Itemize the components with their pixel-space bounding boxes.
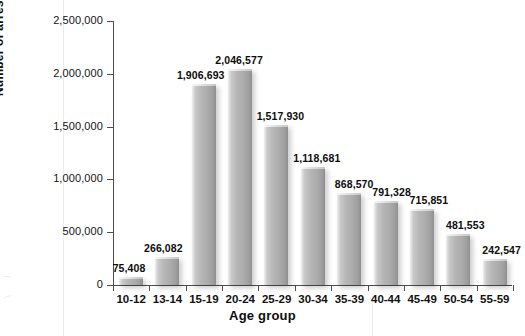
x-axis-tick-label-20-24: 20-24 <box>222 293 258 306</box>
bar-20-24 <box>228 69 252 285</box>
x-axis-tick <box>258 285 259 291</box>
x-axis-tick <box>186 285 187 291</box>
x-axis-tick-label-30-34: 30-34 <box>295 293 331 306</box>
x-axis-tick <box>222 285 223 291</box>
bar-15-19 <box>192 84 216 285</box>
x-axis-tick-label-35-39: 35-39 <box>331 293 367 306</box>
bar-value-label: 266,082 <box>144 243 183 254</box>
x-axis-tick-label-10-12: 10-12 <box>113 293 149 306</box>
bar-25-29 <box>264 125 288 285</box>
bar-value-label: 481,553 <box>446 220 485 231</box>
bar-value-label: 791,328 <box>372 187 411 198</box>
y-axis-tick <box>107 179 113 180</box>
plot-area: 0500,0001,000,0001,500,0002,000,0002,500… <box>113 21 513 285</box>
y-axis-tick-label: 2,500,000 <box>53 15 103 26</box>
bar-value-label: 1,517,930 <box>257 111 305 122</box>
y-axis-title: Number of arrests <box>0 0 6 96</box>
x-axis-tick <box>440 285 441 291</box>
y-axis-tick-label: 1,500,000 <box>53 121 103 132</box>
x-axis-tick <box>513 285 514 291</box>
x-axis-tick <box>331 285 332 291</box>
y-axis-tick-label: 0 <box>97 279 103 290</box>
bar-value-label: 242,547 <box>482 245 521 256</box>
bar-40-44 <box>374 201 398 285</box>
bar-chart: Number of arrests 0500,0001,000,0001,500… <box>0 0 525 336</box>
x-axis-tick <box>113 285 114 291</box>
bar-10-12 <box>119 277 143 285</box>
bar-value-label: 715,851 <box>410 195 449 206</box>
y-axis-tick-label: 2,000,000 <box>53 68 103 79</box>
bar-value-label: 75,408 <box>113 263 146 274</box>
y-axis-tick <box>107 74 113 75</box>
x-axis-tick-label-15-19: 15-19 <box>186 293 222 306</box>
y-axis-tick-label: 1,000,000 <box>53 173 103 184</box>
bar-value-label: 1,906,693 <box>177 70 225 81</box>
x-axis-tick-label-50-54: 50-54 <box>440 293 476 306</box>
page-scan-artifact-mark <box>4 276 10 277</box>
y-axis-tick <box>107 232 113 233</box>
x-axis-tick-label-13-14: 13-14 <box>149 293 185 306</box>
y-axis-tick <box>107 127 113 128</box>
x-axis-tick <box>404 285 405 291</box>
bar-value-label: 1,118,681 <box>293 153 340 164</box>
x-axis-tick-label-40-44: 40-44 <box>368 293 404 306</box>
bar-13-14 <box>155 257 179 285</box>
bar-35-39 <box>337 193 361 285</box>
bar-45-49 <box>410 209 434 285</box>
page-scan-artifact-line <box>63 0 64 336</box>
bar-55-59 <box>483 259 507 285</box>
bar-value-label: 868,570 <box>335 179 374 190</box>
x-axis-tick <box>368 285 369 291</box>
bar-30-34 <box>301 167 325 285</box>
x-axis-tick-label-55-59: 55-59 <box>477 293 513 306</box>
x-axis-tick <box>149 285 150 291</box>
x-axis-title: Age group <box>0 308 525 323</box>
x-axis-tick-label-45-49: 45-49 <box>404 293 440 306</box>
y-axis-tick <box>107 21 113 22</box>
bar-value-label: 2,046,577 <box>215 55 263 66</box>
x-axis-tick-label-25-29: 25-29 <box>258 293 294 306</box>
y-axis-tick-label: 500,000 <box>63 226 103 237</box>
x-axis-line <box>113 285 512 286</box>
y-axis-line <box>113 21 114 285</box>
bar-50-54 <box>446 234 470 285</box>
x-axis-tick <box>295 285 296 291</box>
page-scan-artifact-mark <box>4 295 11 298</box>
x-axis-tick <box>477 285 478 291</box>
